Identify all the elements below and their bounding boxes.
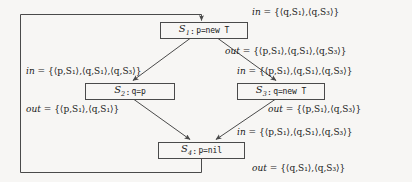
annotation-s2-in-set: {⟨p,S₁⟩,⟨q,S₁⟩,⟨q,S₃⟩} xyxy=(48,66,141,76)
annotation-s2-in: in = {⟨p,S₁⟩,⟨q,S₁⟩,⟨q,S₃⟩} xyxy=(26,67,141,76)
annotation-s1-out-keyword: out xyxy=(225,46,240,56)
node-s3-code: q=new T xyxy=(273,88,306,96)
annotation-s3-in: in = {⟨p,S₁⟩,⟨q,S₁⟩,⟨q,S₃⟩} xyxy=(237,67,352,76)
annotation-s4-in-set: {⟨p,S₁⟩,⟨q,S₁⟩,⟨q,S₃⟩} xyxy=(259,127,352,137)
edge-s1-to-s2 xyxy=(133,39,190,81)
annotation-s3-out-set: {⟨p,S₁⟩,⟨q,S₃⟩} xyxy=(296,104,361,114)
annotation-s1-out: out = {⟨p,S₁⟩,⟨q,S₁⟩,⟨q,S₃⟩} xyxy=(225,47,347,56)
annotation-s2-in-keyword: in xyxy=(26,66,35,76)
node-s4-code: p=nil xyxy=(198,147,222,155)
edge-s2-to-s4 xyxy=(134,100,190,140)
node-s4[interactable]: S4:p=nil xyxy=(158,142,245,159)
annotation-s3-out: out = {⟨p,S₁⟩,⟨q,S₃⟩} xyxy=(268,105,361,114)
annotation-s3-in-equals: = xyxy=(249,66,257,76)
node-s2-code: q=p xyxy=(132,88,146,96)
node-s1[interactable]: S1:p=new T xyxy=(160,22,248,39)
node-s3[interactable]: S3:q=new T xyxy=(237,83,325,100)
annotation-s2-out-equals: = xyxy=(44,104,52,114)
annotation-s4-in-keyword: in xyxy=(237,127,246,137)
annotation-s4-out-keyword: out xyxy=(252,163,267,173)
annotation-s4-out-equals: = xyxy=(270,163,278,173)
annotation-s4-in: in = {⟨p,S₁⟩,⟨q,S₁⟩,⟨q,S₃⟩} xyxy=(237,128,352,137)
annotation-s4-in-equals: = xyxy=(249,127,257,137)
node-s1-id: S1 xyxy=(179,24,190,37)
node-s2-id: S2 xyxy=(114,85,125,98)
annotation-s1-out-equals: = xyxy=(243,46,251,56)
annotation-s3-in-set: {⟨p,S₁⟩,⟨q,S₁⟩,⟨q,S₃⟩} xyxy=(259,66,352,76)
annotation-s4-out: out = {⟨q,S₁⟩,⟨q,S₃⟩} xyxy=(252,164,345,173)
annotation-s4-out-set: {⟨q,S₁⟩,⟨q,S₃⟩} xyxy=(280,163,345,173)
node-s3-id: S3 xyxy=(256,85,267,98)
annotation-s2-out-keyword: out xyxy=(26,104,41,114)
node-s4-id: S4 xyxy=(181,144,192,157)
annotation-s2-out-set: {⟨p,S₁⟩,⟨q,S₁⟩} xyxy=(54,104,119,114)
annotation-s1-out-set: {⟨p,S₁⟩,⟨q,S₁⟩,⟨q,S₃⟩} xyxy=(253,46,346,56)
annotation-s3-out-equals: = xyxy=(286,104,294,114)
annotation-s1-in-keyword: in xyxy=(252,7,261,17)
annotation-s1-in-equals: = xyxy=(264,7,272,17)
annotation-s2-out: out = {⟨p,S₁⟩,⟨q,S₁⟩} xyxy=(26,105,119,114)
annotation-s3-in-keyword: in xyxy=(237,66,246,76)
node-s2[interactable]: S2:q=p xyxy=(85,83,175,100)
node-s1-code: p=new T xyxy=(196,27,229,35)
diagram-canvas: S1:p=new T S2:q=p S3:q=new T S4:p=nil in… xyxy=(0,0,412,182)
annotation-s2-in-equals: = xyxy=(38,66,46,76)
annotation-s1-in-set: {⟨q,S₁⟩,⟨q,S₃⟩} xyxy=(274,7,339,17)
annotation-s1-in: in = {⟨q,S₁⟩,⟨q,S₃⟩} xyxy=(252,8,339,17)
annotation-s3-out-keyword: out xyxy=(268,104,283,114)
